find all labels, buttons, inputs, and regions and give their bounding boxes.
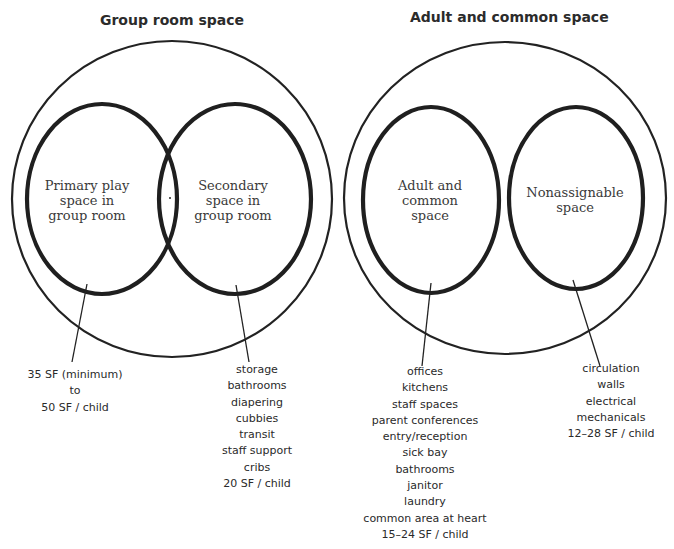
callout-line: diapering [207, 395, 307, 411]
secondary-space-zone-label: Secondary space in group room [178, 178, 288, 223]
secondary-space-callout: storage bathrooms diapering cubbies tran… [207, 362, 307, 492]
primary-play-callout: 35 SF (minimum) to 50 SF / child [20, 367, 130, 416]
callout-line: janitor [355, 478, 495, 494]
secondary-space-leader-line [236, 285, 249, 362]
callout-line: 50 SF / child [20, 400, 130, 416]
callout-line: cubbies [207, 411, 307, 427]
adult-common-callout: offices kitchens staff spaces parent con… [355, 364, 495, 543]
nonassignable-leader-line [573, 280, 600, 366]
callout-line: 35 SF (minimum) [20, 367, 130, 383]
callout-line: 20 SF / child [207, 476, 307, 492]
callout-line: circulation [556, 361, 666, 377]
callout-line: 12–28 SF / child [556, 426, 666, 442]
space-allocation-diagram: Group room space Adult and common space … [0, 0, 674, 549]
primary-play-zone-label: Primary play space in group room [22, 178, 152, 223]
callout-line: common area at heart [355, 511, 495, 527]
callout-line: kitchens [355, 380, 495, 396]
diagram-shapes [0, 0, 674, 549]
callout-line: transit [207, 427, 307, 443]
adult-common-title: Adult and common space [410, 9, 595, 25]
callout-line: walls [556, 377, 666, 393]
callout-line: bathrooms [207, 378, 307, 394]
callout-line: laundry [355, 494, 495, 510]
callout-line: offices [355, 364, 495, 380]
callout-line: parent conferences [355, 413, 495, 429]
callout-line: bathrooms [355, 462, 495, 478]
adult-common-leader-line [422, 283, 431, 366]
callout-line: staff spaces [355, 397, 495, 413]
center-dot [169, 197, 171, 199]
nonassignable-zone-label: Nonassignable space [500, 185, 650, 215]
callout-line: 15–24 SF / child [355, 527, 495, 543]
callout-line: storage [207, 362, 307, 378]
adult-common-zone-label: Adult and common space [365, 178, 495, 223]
group-room-title: Group room space [92, 12, 252, 28]
callout-line: entry/reception [355, 429, 495, 445]
callout-line: electrical [556, 394, 666, 410]
nonassignable-callout: circulation walls electrical mechanicals… [556, 361, 666, 442]
callout-line: cribs [207, 460, 307, 476]
callout-line: sick bay [355, 445, 495, 461]
callout-line: staff support [207, 443, 307, 459]
callout-line: mechanicals [556, 410, 666, 426]
callout-line: to [20, 383, 130, 399]
